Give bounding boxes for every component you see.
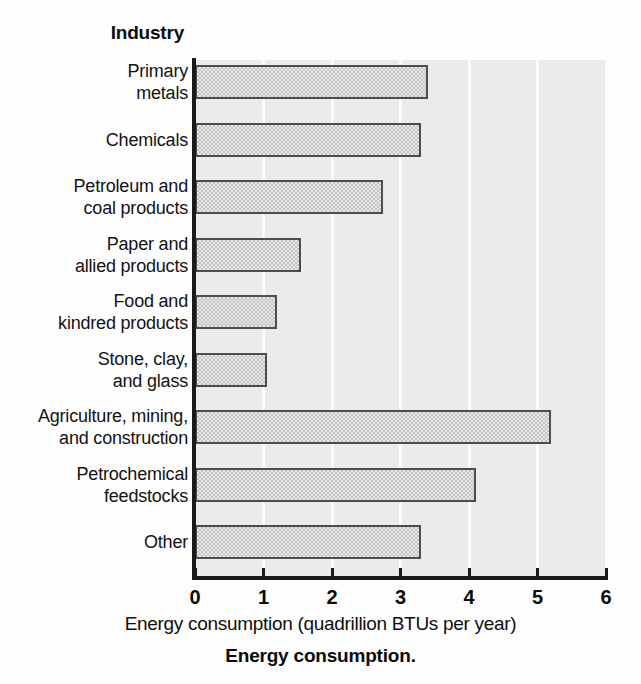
category-label-line: metals <box>0 82 188 104</box>
category-label: Primarymetals <box>0 60 188 104</box>
bar-petroleum-and-coal-products[interactable] <box>195 180 383 214</box>
category-label-line: kindred products <box>0 312 188 334</box>
bar-row <box>195 410 606 444</box>
x-tick-label-6: 6 <box>586 586 626 609</box>
category-label: Chemicals <box>0 129 188 151</box>
category-label: Agriculture, mining,and construction <box>0 405 188 449</box>
bar-chemicals[interactable] <box>195 123 421 157</box>
bar-row <box>195 468 606 502</box>
category-label-line: Stone, clay, <box>0 348 188 370</box>
category-label-line: and construction <box>0 427 188 449</box>
category-label-line: Food and <box>0 290 188 312</box>
category-label-line: coal products <box>0 197 188 219</box>
category-axis-title: Industry <box>0 22 196 44</box>
bar-other[interactable] <box>195 525 421 559</box>
x-tick-mark-3 <box>399 568 402 578</box>
bar-chart-figure: Industry PrimarymetalsChemicalsPetroleum… <box>0 0 641 684</box>
category-label: Food andkindred products <box>0 290 188 334</box>
x-tick-mark-1 <box>262 568 265 578</box>
x-tick-label-3: 3 <box>381 586 421 609</box>
bar-agriculture-mining-and-construction[interactable] <box>195 410 551 444</box>
figure-caption: Energy consumption. <box>0 645 641 667</box>
y-axis-line <box>192 58 196 580</box>
bar-stone-clay-and-glass[interactable] <box>195 353 267 387</box>
bar-row <box>195 123 606 157</box>
bar-paper-and-allied-products[interactable] <box>195 238 301 272</box>
x-tick-label-5: 5 <box>518 586 558 609</box>
bar-row <box>195 238 606 272</box>
bar-row <box>195 295 606 329</box>
category-label-line: Other <box>0 531 188 553</box>
category-label: Petrochemicalfeedstocks <box>0 463 188 507</box>
bar-food-and-kindred-products[interactable] <box>195 295 277 329</box>
plot-area <box>195 60 606 578</box>
category-label: Other <box>0 531 188 553</box>
x-axis-label: Energy consumption (quadrillion BTUs per… <box>0 613 641 635</box>
x-tick-label-1: 1 <box>244 586 284 609</box>
bar-row <box>195 353 606 387</box>
category-label-line: Paper and <box>0 233 188 255</box>
x-tick-mark-6 <box>605 568 608 578</box>
category-label-line: and glass <box>0 370 188 392</box>
x-tick-label-4: 4 <box>449 586 489 609</box>
x-tick-mark-0 <box>194 568 197 578</box>
x-tick-mark-4 <box>468 568 471 578</box>
x-tick-label-0: 0 <box>175 586 215 609</box>
x-tick-label-2: 2 <box>312 586 352 609</box>
category-label-line: Petrochemical <box>0 463 188 485</box>
category-label: Stone, clay,and glass <box>0 348 188 392</box>
x-tick-mark-2 <box>331 568 334 578</box>
category-label-line: Primary <box>0 60 188 82</box>
category-label: Petroleum andcoal products <box>0 175 188 219</box>
bar-primary-metals[interactable] <box>195 65 428 99</box>
category-label-line: Chemicals <box>0 129 188 151</box>
bar-row <box>195 525 606 559</box>
category-label: Paper andallied products <box>0 233 188 277</box>
category-label-line: feedstocks <box>0 485 188 507</box>
bar-row <box>195 180 606 214</box>
category-label-line: Petroleum and <box>0 175 188 197</box>
category-label-line: Agriculture, mining, <box>0 405 188 427</box>
category-label-line: allied products <box>0 255 188 277</box>
bar-row <box>195 65 606 99</box>
bar-petrochemical-feedstocks[interactable] <box>195 468 476 502</box>
x-tick-mark-5 <box>536 568 539 578</box>
